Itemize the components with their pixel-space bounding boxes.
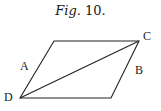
- label-a: A: [20, 60, 29, 72]
- parallelogram-diagram: [0, 0, 161, 111]
- label-b: B: [135, 64, 143, 76]
- diagonal-dc: [20, 41, 139, 98]
- label-d: D: [4, 91, 13, 103]
- label-c: C: [143, 30, 151, 42]
- figure-10: Fig. 10. A B C D: [0, 0, 161, 111]
